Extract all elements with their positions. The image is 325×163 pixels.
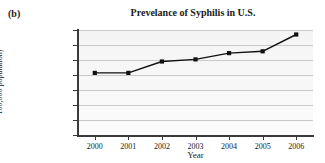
x-tick-mark	[263, 136, 264, 140]
gridline	[78, 30, 313, 31]
x-axis-title: Year	[78, 150, 313, 160]
y-axis-title-line-2: 100,000 population)	[0, 28, 4, 136]
panel-label: (b)	[8, 8, 20, 20]
x-tick-mark	[229, 136, 230, 140]
y-axis-title: Incident Rate (number per 100,000 popula…	[0, 28, 11, 136]
y-tick-mark	[73, 135, 78, 136]
y-tick-mark	[73, 120, 78, 121]
y-tick-mark	[73, 30, 78, 31]
x-tick-mark	[196, 136, 197, 140]
gridline	[78, 60, 313, 61]
y-tick-mark	[73, 75, 78, 76]
x-tick-mark	[95, 136, 96, 140]
gridline	[78, 75, 313, 76]
chart-title: Prevelance of Syphilis in U.S.	[62, 7, 324, 19]
x-tick-mark	[162, 136, 163, 140]
x-tick-mark	[128, 136, 129, 140]
gridline	[78, 105, 313, 106]
y-tick-mark	[73, 45, 78, 46]
y-tick-mark	[73, 105, 78, 106]
y-tick-mark	[73, 60, 78, 61]
gridline	[78, 45, 313, 46]
plot-area	[78, 30, 313, 135]
gridline	[78, 120, 313, 121]
figure-panel: (b) Prevelance of Syphilis in U.S. Incid…	[0, 0, 325, 163]
y-tick-mark	[73, 90, 78, 91]
x-tick-mark	[296, 136, 297, 140]
gridline	[78, 90, 313, 91]
